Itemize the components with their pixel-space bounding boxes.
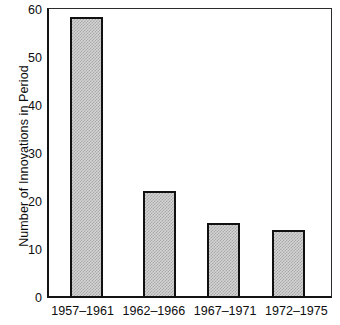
bar [272, 230, 305, 298]
x-axis-tick-label: 1967–1971 [190, 303, 261, 319]
bar [207, 223, 240, 298]
x-axis-tick-labels: 1957–19611962–19661967–19711972–1975 [47, 303, 332, 323]
bar [70, 17, 103, 298]
x-axis-tick-label: 1957–1961 [47, 303, 118, 319]
x-axis-tick-label: 1962–1966 [118, 303, 189, 319]
x-axis-tick-label: 1972–1975 [261, 303, 332, 319]
bars-group [0, 0, 340, 325]
bar [143, 191, 176, 298]
bar-chart: Number of Innovations in Period 60504030… [0, 0, 340, 325]
